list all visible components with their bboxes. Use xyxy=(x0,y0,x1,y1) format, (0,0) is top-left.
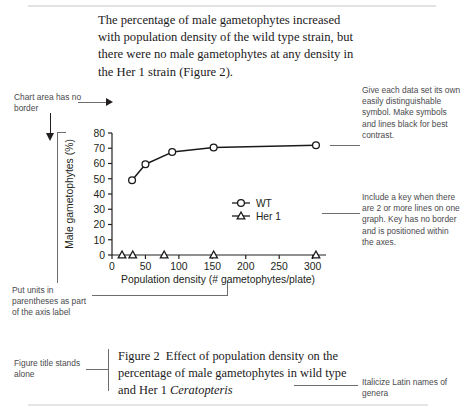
chart-xlabel: Population density (# gametophytes/plate… xyxy=(121,274,315,285)
caption-prefix: Figure 2 xyxy=(118,349,160,363)
legend-marker-circle xyxy=(238,200,245,207)
leader-line-chart-border xyxy=(78,102,108,103)
annotation-figure-title-stands-alone: Figure title stands alone xyxy=(14,358,84,380)
chart-legend: WTHer 1 xyxy=(232,198,281,222)
y-tick-label: 60 xyxy=(93,158,105,169)
annotation-include-a-key: Include a key when there are 2 or more l… xyxy=(362,192,462,248)
arrow-down-icon xyxy=(46,133,54,141)
page-rule-bottom xyxy=(28,404,428,406)
x-tick-label: 250 xyxy=(271,261,289,272)
chart-x-tick-labels: 050100150200250300 xyxy=(109,261,321,272)
bracket-figure-title xyxy=(108,349,109,391)
legend-label: WT xyxy=(256,198,272,209)
x-tick-label: 100 xyxy=(170,261,188,272)
page-rule-top xyxy=(28,5,436,7)
figure-chart: 01020304050607080 050100150200250300 Pop… xyxy=(60,125,330,290)
y-tick-label: 10 xyxy=(93,235,105,246)
y-tick-label: 30 xyxy=(93,204,105,215)
x-tick-label: 0 xyxy=(109,261,115,272)
data-point-circle xyxy=(210,144,217,151)
data-point-circle xyxy=(142,161,149,168)
series-line-0 xyxy=(132,145,316,180)
figure-caption: Figure 2 Effect of population density on… xyxy=(118,348,363,399)
annotation-italicize-latin: Italicize Latin names of genera xyxy=(362,377,462,399)
x-tick-label: 200 xyxy=(237,261,255,272)
annotation-chart-area-no-border: Chart area has no border xyxy=(14,92,94,114)
leader-line-units xyxy=(92,295,227,296)
data-point-circle xyxy=(169,149,176,156)
arrow-right-icon xyxy=(106,98,113,106)
y-tick-label: 50 xyxy=(93,174,105,185)
chart-svg: 01020304050607080 050100150200250300 Pop… xyxy=(60,125,330,290)
caption-italic-genus: Ceratopteris xyxy=(170,383,233,397)
data-point-circle xyxy=(129,177,136,184)
leader-line-down xyxy=(50,113,51,135)
chart-series-markers xyxy=(118,142,320,258)
chart-axes xyxy=(112,133,326,255)
legend-label: Her 1 xyxy=(256,211,281,222)
annotation-units-in-parentheses: Put units in parentheses as part of the … xyxy=(12,285,90,319)
annotation-distinguishable-symbols: Give each data set its own easily distin… xyxy=(362,85,462,141)
x-tick-label: 150 xyxy=(204,261,222,272)
data-point-circle xyxy=(313,142,320,149)
y-tick-label: 20 xyxy=(93,219,105,230)
y-tick-label: 0 xyxy=(99,250,105,261)
y-tick-label: 40 xyxy=(93,189,105,200)
x-tick-label: 50 xyxy=(140,261,152,272)
intro-paragraph: The percentage of male gametophytes incr… xyxy=(98,12,356,81)
chart-series-lines xyxy=(132,145,316,180)
chart-y-tick-labels: 01020304050607080 xyxy=(93,128,105,261)
y-tick-label: 80 xyxy=(93,128,105,139)
leader-line-symbols xyxy=(330,145,360,146)
y-tick-label: 70 xyxy=(93,143,105,154)
chart-ylabel: Male gametophytes (%) xyxy=(64,139,75,249)
leader-line-title xyxy=(86,369,108,370)
x-tick-label: 300 xyxy=(304,261,322,272)
